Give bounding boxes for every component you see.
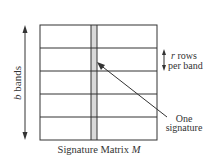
signature-column bbox=[91, 25, 97, 140]
banding-diagram: b bands r rows per band One signature Si… bbox=[0, 0, 213, 165]
signature-matrix bbox=[40, 25, 157, 140]
rows-label-line2: per band bbox=[168, 60, 203, 71]
rows-arrow-icon bbox=[162, 49, 166, 71]
matrix-caption: Signature Matrix M bbox=[58, 144, 142, 155]
bands-label: b bands bbox=[11, 66, 23, 100]
bands-arrow-icon bbox=[23, 25, 28, 140]
pointer-label-line2: signature bbox=[166, 122, 203, 133]
